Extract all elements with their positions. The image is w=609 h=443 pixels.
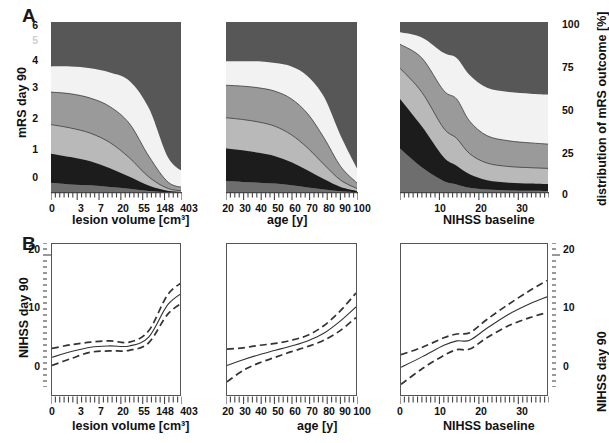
panel-b-plot-nihss [400, 243, 548, 396]
panel-a-xtick-age-70: 70 [303, 203, 321, 214]
panel-b-xlabel-age: age [y] [297, 420, 337, 433]
panel-a-xtick-age-20: 20 [219, 203, 237, 214]
panel-a-area-chart-age [226, 22, 357, 193]
panel-b-xtick-nihss-10: 10 [431, 406, 449, 417]
panel-b-xtick-age-70: 70 [303, 406, 321, 417]
panel-a-ytick-6: 6 [20, 20, 38, 31]
panel-a-ylabel-right: distribution of mRS outcome [%] [596, 12, 609, 206]
panel-a-ytick-right-25: 25 [562, 148, 588, 159]
panel-a-ytick-4: 4 [20, 55, 38, 66]
panel-a-plot-lesion-volume [51, 22, 181, 193]
panel-a-xlabel-age: age [y] [267, 214, 307, 227]
panel-a-ytick-3: 3 [20, 82, 38, 93]
panel-b-xtick-age-50: 50 [269, 406, 287, 417]
panel-b-xtick-lv-3: 3 [74, 406, 88, 417]
panel-b-ylabel-right: NIHSS day 90 [596, 331, 609, 412]
panel-b-xaxis-nihss [400, 396, 549, 405]
panel-b-xtick-age-60: 60 [286, 406, 304, 417]
panel-a-plot-nihss [400, 22, 548, 193]
panel-a-ytick-5: 5 [20, 35, 38, 46]
panel-a-xtick-nihss-10: 10 [431, 203, 449, 214]
panel-b-xtick-lv-403: 403 [177, 406, 201, 417]
panel-a-xtick-lv-20: 20 [114, 203, 132, 214]
panel-a-xtick-nihss-30: 30 [513, 203, 531, 214]
panel-a-xaxis-age [226, 192, 358, 201]
panel-a-xlabel-nihss: NIHSS baseline [443, 214, 535, 227]
panel-b-plot-lesion-volume [51, 243, 181, 396]
panel-b-xtick-lv-0: 0 [45, 406, 59, 417]
panel-b-xtick-lv-7: 7 [94, 406, 108, 417]
panel-b-xtick-lv-20: 20 [114, 406, 132, 417]
panel-b-xlabel-nihss: NIHSS baseline [443, 420, 535, 433]
panel-a-ytick-1: 1 [20, 144, 38, 155]
panel-b-ytick-right-20: 20 [563, 244, 587, 255]
panel-b-ytick-10: 10 [20, 302, 40, 313]
panel-b-line-chart-nihss [401, 244, 547, 395]
panel-b-line-chart-age [227, 244, 356, 395]
panel-a-ytick-2: 2 [20, 113, 38, 124]
panel-b-line-chart-lesion-volume [52, 244, 180, 395]
panel-b-ytick-right-0: 0 [563, 361, 587, 372]
panel-b-xtick-lv-148: 148 [153, 406, 177, 417]
panel-b-xtick-age-100: 100 [351, 406, 373, 417]
panel-a-plot-age [226, 22, 357, 193]
panel-a-xtick-lv-0: 0 [45, 203, 59, 214]
panel-b-yaxis-right [551, 243, 561, 387]
panel-a-area-chart-lesion-volume [51, 22, 181, 193]
panel-b-plot-age [226, 243, 357, 396]
panel-a-ytick-right-100: 100 [562, 19, 588, 30]
panel-b-xtick-lv-55: 55 [135, 406, 153, 417]
panel-a-ytick-right-50: 50 [562, 105, 588, 116]
panel-a-ytick-right-0: 0 [562, 189, 588, 200]
panel-a-xtick-age-50: 50 [269, 203, 287, 214]
panel-a-ytick-right-75: 75 [562, 62, 588, 73]
panel-b-xtick-nihss-0: 0 [392, 406, 408, 417]
panel-a-xtick-age-40: 40 [252, 203, 270, 214]
panel-b-ytick-right-10: 10 [563, 302, 587, 313]
panel-a-area-chart-nihss [400, 22, 548, 193]
panel-b-xaxis-age [226, 396, 358, 405]
panel-a-xtick-lv-403: 403 [177, 203, 201, 214]
panel-a-xtick-age-100: 100 [351, 203, 373, 214]
panel-b-ylabel-left: NIHSS day 90 [18, 277, 31, 358]
panel-a-xtick-age-60: 60 [286, 203, 304, 214]
panel-a-xtick-nihss-20: 20 [472, 203, 490, 214]
panel-b-ytick-20: 20 [20, 244, 40, 255]
panel-a-xtick-lv-148: 148 [153, 203, 177, 214]
panel-a-ylabel-left: mRS day 90 [16, 67, 29, 138]
panel-b-xtick-nihss-20: 20 [472, 406, 490, 417]
panel-a-xaxis-lesion-volume [51, 192, 182, 201]
panel-b-xtick-age-20: 20 [219, 406, 237, 417]
panel-b-ytick-0: 0 [20, 361, 40, 372]
panel-a-xlabel-lesion-volume: lesion volume [cm³] [72, 214, 189, 227]
panel-a-xtick-lv-3: 3 [74, 203, 88, 214]
panel-a-xaxis-nihss [400, 192, 549, 201]
panel-a-xtick-lv-55: 55 [135, 203, 153, 214]
panel-a-xtick-lv-7: 7 [94, 203, 108, 214]
panel-b-xtick-nihss-30: 30 [513, 406, 531, 417]
panel-a-ytick-0: 0 [20, 172, 38, 183]
panel-b-xlabel-lesion-volume: lesion volume [cm³] [72, 420, 189, 433]
panel-b-xtick-age-40: 40 [252, 406, 270, 417]
panel-b-xaxis-lesion-volume [51, 396, 182, 405]
